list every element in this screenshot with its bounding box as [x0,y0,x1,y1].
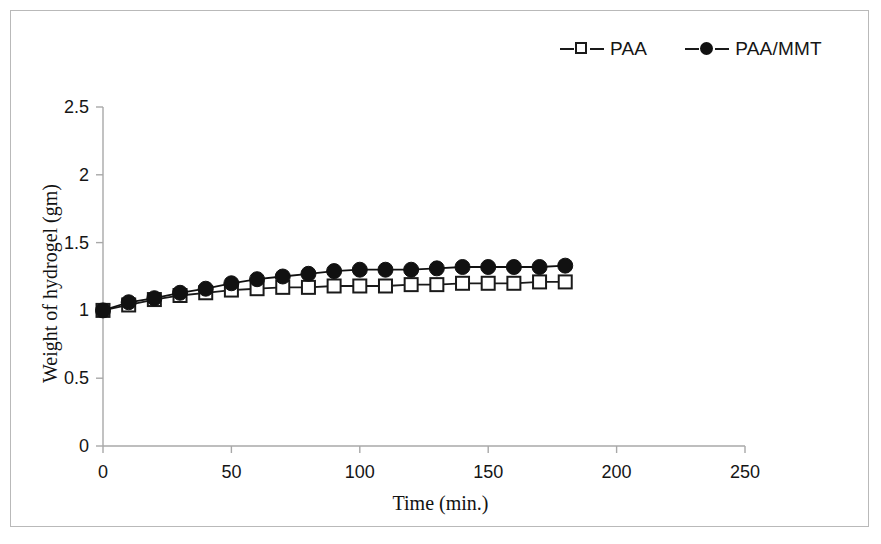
data-point-filled-circle [121,295,136,310]
chart-figure: PAA PAA/MMT 00.511.522.5050100150200250 … [0,0,881,544]
y-axis-tick-label: 1.5 [64,232,89,253]
data-point-filled-circle [301,266,316,281]
data-point-open-square [482,277,495,290]
y-axis-tick-label: 0 [79,436,89,457]
data-point-filled-circle [173,285,188,300]
data-point-filled-circle [429,261,444,276]
data-point-open-square [405,278,418,291]
data-point-filled-circle [532,260,547,275]
x-axis-tick-label: 50 [221,462,241,483]
data-point-filled-circle [327,264,342,279]
y-axis-title: Weight of hydrogel (gm) [39,114,62,454]
data-point-open-square [507,277,520,290]
data-point-filled-circle [198,281,213,296]
data-point-open-square [328,279,341,292]
data-point-open-square [353,279,366,292]
data-point-open-square [533,275,546,288]
y-axis-tick-label: 1 [79,300,89,321]
data-point-open-square [456,277,469,290]
data-point-filled-circle [404,262,419,277]
x-axis-tick-label: 250 [730,462,760,483]
data-point-filled-circle [275,269,290,284]
x-axis-tick-label: 150 [473,462,503,483]
x-axis-tick-label: 200 [602,462,632,483]
y-axis-tick-label: 0.5 [64,368,89,389]
data-point-filled-circle [378,262,393,277]
data-point-filled-circle [147,291,162,306]
data-point-filled-circle [481,260,496,275]
x-axis-tick-label: 100 [345,462,375,483]
data-point-filled-circle [506,260,521,275]
y-axis-tick-label: 2.5 [64,97,89,118]
data-point-open-square [559,275,572,288]
data-point-filled-circle [558,258,573,273]
data-point-filled-circle [352,262,367,277]
y-axis-tick-label: 2 [79,164,89,185]
data-point-open-square [379,279,392,292]
data-point-open-square [302,281,315,294]
data-point-open-square [430,278,443,291]
data-point-filled-circle [224,276,239,291]
data-point-filled-circle [96,303,111,318]
data-point-filled-circle [455,260,470,275]
x-axis-title: Time (min.) [0,492,881,515]
data-point-filled-circle [250,272,265,287]
x-axis-tick-label: 0 [98,462,108,483]
